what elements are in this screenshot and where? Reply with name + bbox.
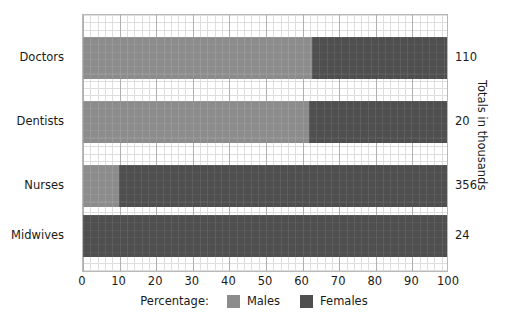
- bar-row: [83, 215, 447, 257]
- legend-item-females: Females: [300, 294, 368, 308]
- legend-swatch-males-icon: [227, 295, 240, 308]
- bar-segment-males: [83, 165, 119, 207]
- bar-row: [83, 101, 447, 143]
- x-tick-100: 100: [437, 274, 459, 288]
- bar-row: [83, 37, 447, 79]
- x-tick-60: 60: [294, 274, 309, 288]
- total-value-doctors: 110: [455, 50, 477, 64]
- category-label-doctors: Doctors: [0, 50, 64, 64]
- bar-segment-females: [312, 37, 447, 79]
- x-tick-10: 10: [111, 274, 126, 288]
- bar-segment-males: [83, 37, 312, 79]
- bar-segment-males: [83, 101, 309, 143]
- total-value-midwives: 24: [455, 228, 470, 242]
- total-value-dentists: 20: [455, 114, 470, 128]
- bar-segment-females: [83, 215, 447, 257]
- plot-area: [82, 14, 448, 272]
- legend-label-females: Females: [320, 294, 368, 308]
- legend-item-males: Males: [227, 294, 280, 308]
- legend-swatch-females-icon: [300, 295, 313, 308]
- legend-title: Percentage:: [140, 294, 209, 308]
- total-value-nurses: 356: [455, 178, 477, 192]
- category-label-midwives: Midwives: [0, 228, 64, 242]
- x-tick-0: 0: [78, 274, 85, 288]
- category-label-dentists: Dentists: [0, 114, 64, 128]
- x-tick-30: 30: [184, 274, 199, 288]
- x-tick-40: 40: [221, 274, 236, 288]
- right-axis-title: Totals in thousands: [475, 80, 489, 190]
- bar-segment-females: [309, 101, 447, 143]
- x-tick-70: 70: [331, 274, 346, 288]
- x-tick-50: 50: [258, 274, 273, 288]
- stacked-bar-chart: Doctors Dentists Nurses Midwives 110 20 …: [0, 0, 518, 328]
- bar-segment-females: [119, 165, 447, 207]
- x-tick-80: 80: [367, 274, 382, 288]
- legend: Percentage: Males Females: [0, 294, 518, 308]
- x-tick-90: 90: [404, 274, 419, 288]
- x-axis-tick-labels: 0 10 20 30 40 50 60 70 80 90 100: [82, 274, 448, 292]
- category-label-nurses: Nurses: [0, 178, 64, 192]
- x-tick-20: 20: [148, 274, 163, 288]
- bar-row: [83, 165, 447, 207]
- legend-label-males: Males: [247, 294, 280, 308]
